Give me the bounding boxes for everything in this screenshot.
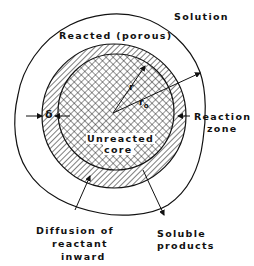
soluble-products-label-1: Soluble bbox=[157, 228, 206, 239]
diffusion-label-3: inward bbox=[61, 251, 106, 262]
delta-symbol: δ bbox=[45, 109, 53, 120]
reaction-zone-label-2: zone bbox=[207, 123, 237, 134]
r0-subscript: o bbox=[144, 102, 149, 110]
r-symbol: r bbox=[129, 81, 134, 92]
unreacted-core-label-1: Unreacted bbox=[86, 133, 155, 144]
diffusion-label-1: Diffusion of bbox=[36, 225, 114, 236]
unreacted-core-label-2: core bbox=[103, 144, 134, 155]
solution-label: Solution bbox=[174, 11, 229, 22]
shrinking-core-diagram: Solution Reacted (porous) r ro δ Reactio… bbox=[0, 0, 254, 266]
reaction-zone-label-1: Reaction bbox=[194, 111, 251, 122]
reacted-porous-label: Reacted (porous) bbox=[59, 30, 172, 41]
r0-symbol: ro bbox=[139, 96, 149, 112]
diffusion-label-2: reactant bbox=[52, 238, 108, 249]
soluble-products-label-2: products bbox=[157, 240, 215, 251]
